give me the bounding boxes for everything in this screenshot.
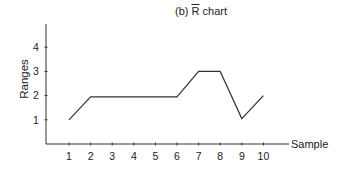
x-tick-label: 4 — [131, 150, 137, 162]
x-tick-label: 8 — [217, 150, 223, 162]
x-tick-label: 1 — [66, 150, 72, 162]
y-tick-label: 3 — [33, 65, 39, 77]
x-tick-label: 9 — [239, 150, 245, 162]
data-line — [69, 71, 263, 119]
x-tick-label: 10 — [258, 150, 270, 162]
x-tick-label: 5 — [152, 150, 158, 162]
x-tick-label: 6 — [174, 150, 180, 162]
x-tick-label: 2 — [88, 150, 94, 162]
y-tick-label: 4 — [33, 41, 39, 53]
y-tick-label: 1 — [33, 114, 39, 126]
y-tick-label: 2 — [33, 89, 39, 101]
plot-area: 123412345678910 — [0, 0, 340, 174]
x-tick-label: 3 — [109, 150, 115, 162]
x-tick-label: 7 — [196, 150, 202, 162]
